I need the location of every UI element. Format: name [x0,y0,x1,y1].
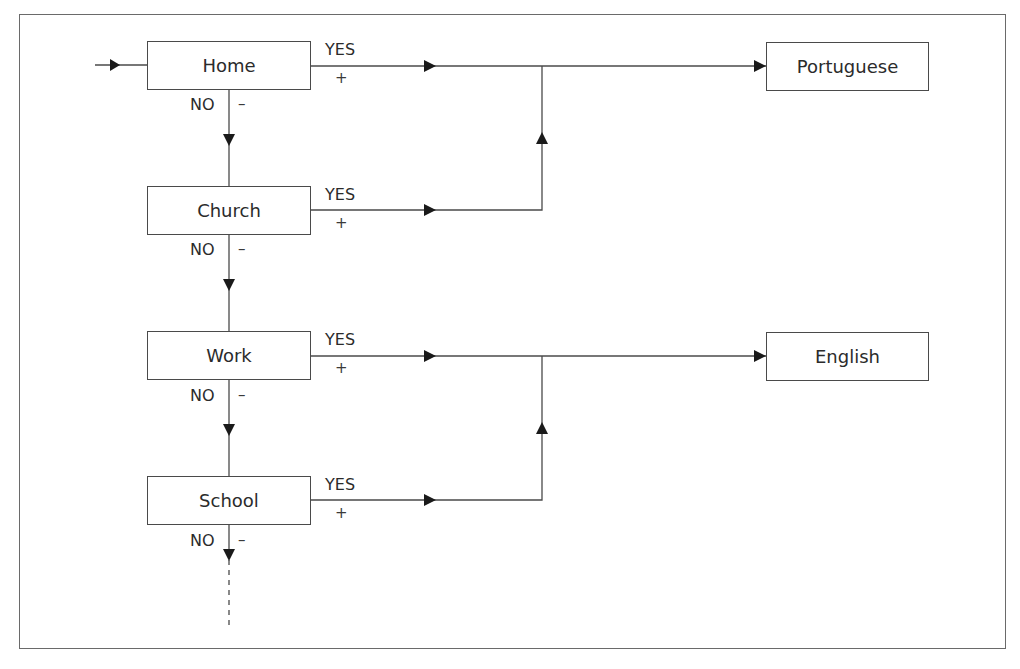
work-yes-sign: + [335,361,348,376]
decision-home: Home [147,41,311,90]
church-no-label: NO [190,242,215,258]
work-no-sign: – [238,388,246,403]
church-yes-sign: + [335,216,348,231]
outcome-portuguese: Portuguese [766,42,929,91]
outcome-english: English [766,332,929,381]
work-no-label: NO [190,388,215,404]
school-yes-sign: + [335,506,348,521]
church-yes-label: YES [325,187,355,203]
home-no-label: NO [190,97,215,113]
school-yes-label: YES [325,477,355,493]
decision-work: Work [147,331,311,380]
home-yes-sign: + [335,71,348,86]
work-yes-label: YES [325,332,355,348]
decision-church: Church [147,186,311,235]
school-no-label: NO [190,533,215,549]
church-no-sign: – [238,242,246,257]
decision-school: School [147,476,311,525]
home-yes-label: YES [325,42,355,58]
home-no-sign: – [238,97,246,112]
school-no-sign: – [238,533,246,548]
